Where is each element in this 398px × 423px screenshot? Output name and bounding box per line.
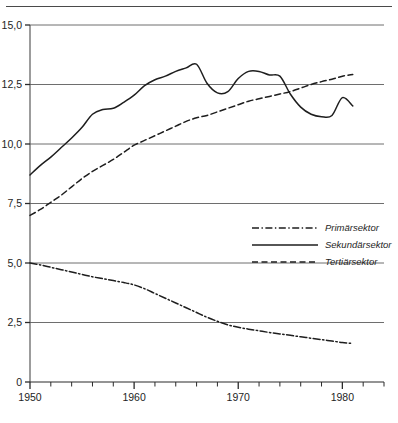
chart-figure: 02,55,07,510,012,515,0 1950196019701980 … bbox=[0, 0, 398, 423]
series-line-sekundärsektor bbox=[30, 64, 353, 175]
legend-label: Sekundärsektor bbox=[325, 239, 392, 250]
y-tick-label: 7,5 bbox=[7, 197, 22, 209]
y-tick-label: 10,0 bbox=[2, 138, 23, 150]
gridlines bbox=[30, 25, 384, 323]
y-tick-label: 15,0 bbox=[2, 19, 23, 31]
y-axis-ticks: 02,55,07,510,012,515,0 bbox=[2, 19, 30, 388]
x-tick-label: 1950 bbox=[18, 391, 42, 403]
legend-label: Tertiärsektor bbox=[325, 256, 378, 267]
chart-legend: PrimärsektorSekundärsektorTertiärsektor bbox=[252, 222, 392, 267]
y-tick-label: 2,5 bbox=[7, 316, 22, 328]
y-tick-label: 12,5 bbox=[2, 78, 23, 90]
x-tick-label: 1970 bbox=[227, 391, 251, 403]
x-tick-label: 1980 bbox=[331, 391, 355, 403]
line-chart-canvas: 02,55,07,510,012,515,0 1950196019701980 … bbox=[0, 0, 398, 423]
x-tick-label: 1960 bbox=[122, 391, 146, 403]
series-line-primärsektor bbox=[30, 263, 353, 343]
x-axis-ticks: 1950196019701980 bbox=[18, 382, 384, 403]
y-tick-label: 5,0 bbox=[7, 257, 22, 269]
series-line-tertiärsektor bbox=[30, 75, 353, 216]
y-tick-label: 0 bbox=[16, 376, 22, 388]
legend-label: Primärsektor bbox=[325, 222, 380, 233]
